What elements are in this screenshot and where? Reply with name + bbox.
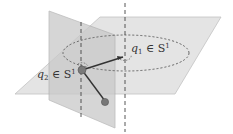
diagram-canvas: q1 ∈ S1 q2 ∈ S1 <box>0 0 233 134</box>
q1-label: q1 ∈ S1 <box>131 42 170 56</box>
joint-ball <box>78 66 86 74</box>
horizontal-plane <box>15 17 221 94</box>
pendulum-ball <box>101 98 108 105</box>
pendulum-diagram: q1 ∈ S1 q2 ∈ S1 <box>0 0 233 134</box>
q2-label: q2 ∈ S1 <box>37 68 76 82</box>
